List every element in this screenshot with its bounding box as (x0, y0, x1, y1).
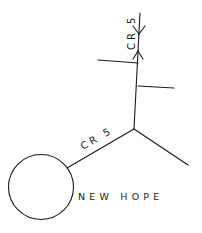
town-circle (9, 155, 74, 220)
road-cross-left (98, 60, 138, 63)
road-map: CR 5 CR 5 NEW HOPE (0, 0, 202, 233)
map-canvas: CR 5 CR 5 NEW HOPE (0, 0, 202, 233)
road-branch-southeast (134, 129, 188, 165)
road-label-cr5-southwest: CR 5 (79, 124, 115, 151)
town-label: NEW HOPE (78, 191, 163, 202)
road-cross-right (138, 86, 174, 88)
road-label-cr5-north: CR 5 (126, 15, 137, 50)
